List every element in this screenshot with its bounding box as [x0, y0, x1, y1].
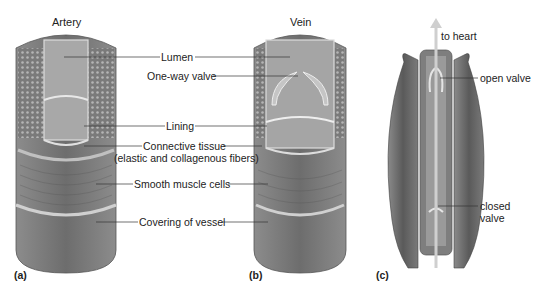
label-smooth-muscle: Smooth muscle cells — [134, 178, 230, 190]
panel-label-b: (b) — [249, 269, 262, 281]
vein-illustration — [254, 35, 346, 273]
panel-label-c: (c) — [376, 269, 389, 281]
label-lining: Lining — [166, 120, 194, 132]
calf-muscle-illustration — [388, 18, 484, 268]
label-closed-valve-2: valve — [480, 212, 505, 224]
diagram-artwork — [0, 0, 543, 290]
artery-illustration — [16, 35, 116, 273]
label-covering: Covering of vessel — [139, 216, 225, 228]
label-closed-valve-1: closed — [480, 200, 510, 212]
label-lumen: Lumen — [161, 51, 193, 63]
artery-title: Artery — [52, 16, 81, 28]
panel-label-a: (a) — [14, 269, 27, 281]
label-connective-tissue: Connective tissue — [143, 140, 226, 152]
label-to-heart: to heart — [441, 30, 477, 42]
label-open-valve: open valve — [480, 72, 531, 84]
label-one-way-valve: One-way valve — [147, 70, 216, 82]
label-connective-sub: (elastic and collagenous fibers) — [114, 152, 259, 164]
vein-title: Vein — [290, 16, 311, 28]
